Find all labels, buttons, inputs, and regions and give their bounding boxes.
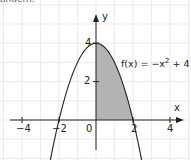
x-tick-label-neg4: −4 xyxy=(16,124,31,134)
parabola-chart: ändern. x y 0 −4 −2 2 4 2 4 f(x) = −x2 +… xyxy=(0,0,191,160)
function-label: f(x) = −x2 + 4 xyxy=(121,57,189,69)
x-axis-label: x xyxy=(174,103,180,113)
x-axis-arrow-icon xyxy=(176,117,184,123)
y-axis-arrow-icon xyxy=(93,14,99,22)
y-axis-label: y xyxy=(102,12,108,22)
origin-label: 0 xyxy=(86,124,92,134)
plot-area xyxy=(0,0,191,160)
function-label-suffix: + 4 xyxy=(169,58,189,69)
x-tick-label-neg2: −2 xyxy=(52,124,67,134)
y-tick-label-4: 4 xyxy=(85,38,91,48)
x-tick-label-4: 4 xyxy=(167,124,173,134)
x-tick-label-2: 2 xyxy=(131,124,137,134)
function-label-prefix: f(x) = −x xyxy=(121,58,165,69)
y-tick-label-2: 2 xyxy=(84,76,90,86)
